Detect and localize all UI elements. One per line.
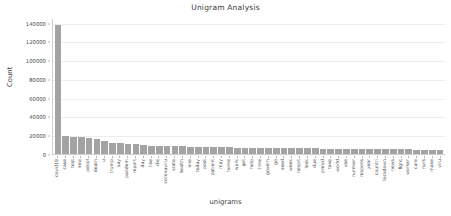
x-axis-tick: help <box>249 156 256 204</box>
bar <box>413 150 420 155</box>
x-axis-tick: one <box>186 156 193 204</box>
x-axis-tick-mark <box>229 156 230 158</box>
bar <box>382 149 389 154</box>
x-axis-tick-mark <box>112 156 113 158</box>
bar <box>203 147 210 154</box>
x-axis-tick-mark <box>346 156 347 158</box>
y-axis-tick-label: 0 <box>43 152 46 158</box>
x-axis-tick-mark <box>291 156 292 158</box>
x-axis-tick: state <box>171 156 178 204</box>
bar <box>320 149 327 154</box>
x-axis-tick-label: week <box>289 159 294 171</box>
bar <box>366 149 373 154</box>
x-axis-tick: govern <box>264 156 271 204</box>
x-axis-tick: work <box>233 156 240 204</box>
bar <box>78 137 85 154</box>
bar <box>210 147 217 154</box>
x-axis-tick: new <box>77 156 84 204</box>
x-axis-tick-mark <box>221 156 222 158</box>
x-axis-tick-label: year <box>367 159 372 169</box>
x-axis-tick-label: like <box>148 159 153 167</box>
x-axis-tick: use <box>343 156 350 204</box>
x-axis-tick-label: countri <box>375 159 380 175</box>
bar <box>242 148 249 154</box>
bar <box>109 143 116 154</box>
chart-title: Unigram Analysis <box>0 3 451 12</box>
x-axis-tick: may <box>218 156 225 204</box>
x-axis-tick: say <box>116 156 123 204</box>
x-axis-tick-label: pandem <box>125 159 130 178</box>
x-axis-tick-label: time <box>258 159 263 169</box>
bar <box>140 145 147 154</box>
bar <box>281 148 288 154</box>
x-axis-tick: make <box>429 156 436 204</box>
x-axis-tick-mark <box>104 156 105 158</box>
x-axis-tick-mark <box>237 156 238 158</box>
bar <box>273 148 280 154</box>
bar <box>94 139 101 154</box>
x-axis-tick: like <box>147 156 154 204</box>
bar <box>101 141 108 154</box>
x-axis-tick-label: need <box>281 159 286 170</box>
x-axis-tick: respons <box>358 156 365 204</box>
x-axis-tick-mark <box>57 156 58 158</box>
bar <box>390 149 397 154</box>
bar <box>343 149 350 154</box>
x-axis-tick-label: health <box>180 159 185 174</box>
x-axis-tick: care <box>413 156 420 204</box>
bar-series <box>53 19 445 154</box>
x-axis-tick-label: today <box>195 159 200 172</box>
bar <box>359 149 366 154</box>
x-axis-tick-mark <box>166 156 167 158</box>
x-axis-tick-label: hospit <box>297 159 302 173</box>
x-axis-tick: look <box>304 156 311 204</box>
x-axis-tick-group: covid19casetestnewpeopldeathutrumpsaypan… <box>52 156 445 204</box>
bar <box>304 148 311 154</box>
bar <box>195 147 202 154</box>
x-axis-tick: trump <box>108 156 115 204</box>
y-axis-tick-group: 020000400006000080000100000120000140000 <box>0 19 50 155</box>
x-axis-tick: today <box>194 156 201 204</box>
x-axis-tick-label: number <box>351 159 356 177</box>
x-axis-tick-mark <box>151 156 152 158</box>
x-axis-tick: patient <box>210 156 217 204</box>
x-axis-tick: covid19 <box>54 156 61 204</box>
x-axis-tick-mark <box>440 156 441 158</box>
x-axis-tick-label: look <box>305 159 310 169</box>
x-axis-tick-mark <box>354 156 355 158</box>
x-axis-tick-label: report <box>133 159 138 173</box>
x-axis-tick-label: govern <box>266 159 271 175</box>
bar <box>398 149 405 154</box>
x-axis-tick: u <box>100 156 107 204</box>
y-axis-tick-label: 40000 <box>29 114 46 120</box>
x-axis-tick: report <box>132 156 139 204</box>
x-axis-tick: countri <box>374 156 381 204</box>
x-axis-tick-mark <box>323 156 324 158</box>
x-axis-tick: get <box>241 156 248 204</box>
x-axis-tick: coronaviru <box>163 156 170 204</box>
x-axis-tick-mark <box>369 156 370 158</box>
x-axis-tick-mark <box>198 156 199 158</box>
bar <box>234 148 241 154</box>
x-axis-tick-mark <box>135 156 136 158</box>
x-axis-tick-mark <box>213 156 214 158</box>
bar <box>117 143 124 154</box>
x-axis-tick-mark <box>276 156 277 158</box>
x-axis-tick: fight <box>397 156 404 204</box>
x-axis-tick: die <box>155 156 162 204</box>
x-axis-tick-label: presid <box>320 159 325 173</box>
x-axis-tick-label: nurs <box>422 159 427 169</box>
bar <box>312 148 319 154</box>
bar <box>187 147 194 154</box>
x-axis-tick: nurs <box>421 156 428 204</box>
bar <box>62 136 69 154</box>
x-axis-tick-label: get <box>242 159 247 167</box>
bar <box>405 149 412 154</box>
x-axis-tick: hospit <box>296 156 303 204</box>
bar <box>125 144 132 154</box>
y-axis-tick-mark <box>48 136 50 137</box>
x-axis-tick-label: worker <box>406 159 411 175</box>
bar <box>429 150 436 154</box>
x-axis-tick-label: make <box>430 159 435 172</box>
y-axis-tick-mark <box>48 61 50 62</box>
